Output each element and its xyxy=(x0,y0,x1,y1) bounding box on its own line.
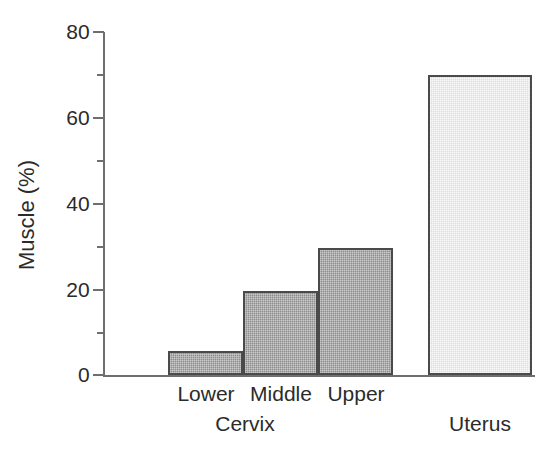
bar-middle xyxy=(243,291,318,375)
y-tick-minor-50 xyxy=(97,160,104,162)
y-tick-minor-10 xyxy=(97,332,104,334)
y-tick-major-0 xyxy=(93,374,104,376)
y-tick-label-80-wrap: 80 xyxy=(52,21,90,42)
cropped-caption-sliver xyxy=(0,466,557,472)
bar-upper xyxy=(318,248,393,375)
y-tick-label-60: 60 xyxy=(56,107,90,128)
group-label-cervix: Cervix xyxy=(195,412,295,436)
y-tick-label-0: 0 xyxy=(56,364,90,385)
y-tick-label-20-wrap: 20 xyxy=(52,279,90,300)
x-axis-line xyxy=(103,375,535,377)
y-tick-major-60 xyxy=(93,117,104,119)
bar-lower xyxy=(168,351,243,375)
x-label-upper: Upper xyxy=(312,382,400,406)
plot-area: 80 60 40 20 0 Muscle (%) Lower Middle Up… xyxy=(0,0,557,472)
y-tick-label-40-wrap: 40 xyxy=(52,193,90,214)
y-tick-major-40 xyxy=(93,203,104,205)
figure-bar-chart: 80 60 40 20 0 Muscle (%) Lower Middle Up… xyxy=(0,0,557,472)
bar-uterus xyxy=(428,75,532,375)
y-tick-label-20: 20 xyxy=(56,279,90,300)
y-tick-minor-70 xyxy=(97,74,104,76)
y-tick-minor-30 xyxy=(97,246,104,248)
y-axis-title: Muscle (%) xyxy=(16,135,38,295)
y-tick-label-60-wrap: 60 xyxy=(52,107,90,128)
y-tick-major-20 xyxy=(93,289,104,291)
y-tick-label-0-wrap: 0 xyxy=(52,364,90,385)
y-tick-label-40: 40 xyxy=(56,193,90,214)
group-label-uterus: Uterus xyxy=(430,412,530,436)
y-tick-major-80 xyxy=(93,31,104,33)
y-tick-label-80: 80 xyxy=(56,21,90,42)
cropped-caption-text xyxy=(0,466,557,472)
